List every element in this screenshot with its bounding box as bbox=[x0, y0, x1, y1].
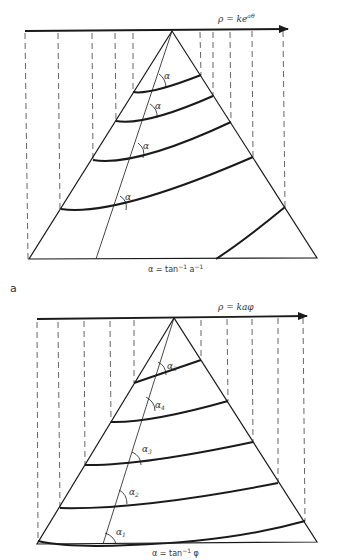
spiral-axis-line bbox=[37, 316, 307, 319]
axis-label: ρ = kaφ bbox=[217, 302, 254, 312]
angle-marks bbox=[105, 362, 166, 544]
radial-line bbox=[103, 318, 174, 544]
triangle-outline bbox=[29, 31, 317, 259]
spiral-axis-line bbox=[25, 29, 288, 31]
figure-canvas: ρ = keaθ bbox=[0, 0, 337, 560]
spiral-arcs bbox=[38, 360, 305, 546]
panel-a: ρ = keaθ bbox=[10, 12, 317, 295]
svg-text:α4: α4 bbox=[155, 400, 165, 411]
svg-text:α: α bbox=[143, 141, 149, 151]
radial-line bbox=[96, 31, 172, 259]
svg-text:α5: α5 bbox=[167, 361, 177, 372]
svg-text:α1: α1 bbox=[116, 527, 126, 538]
triangle-outline bbox=[37, 318, 317, 544]
panel-label-a: a bbox=[10, 282, 17, 295]
angle-labels: α5 α4 α3 α2 α1 bbox=[116, 361, 177, 538]
caption-b: α = tan−1 φ bbox=[152, 547, 199, 558]
projection-dashes bbox=[25, 31, 285, 259]
svg-text:α: α bbox=[125, 192, 131, 202]
panel-b: ρ = kaφ bbox=[37, 302, 317, 558]
svg-text:α: α bbox=[164, 71, 170, 81]
svg-text:α2: α2 bbox=[129, 487, 139, 498]
caption-a: α = tan−1 a−1 bbox=[148, 263, 204, 274]
svg-text:α: α bbox=[155, 101, 161, 111]
axis-label: ρ = keaθ bbox=[217, 12, 255, 24]
spiral-arcs bbox=[61, 75, 285, 259]
svg-text:α3: α3 bbox=[142, 444, 152, 455]
